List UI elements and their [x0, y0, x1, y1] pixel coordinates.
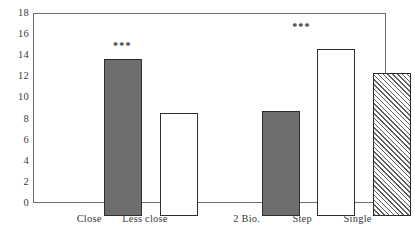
plot-area	[33, 13, 386, 203]
y-tick-label: 2	[0, 177, 29, 187]
y-tick-label: 4	[0, 156, 29, 166]
bar-single	[373, 73, 411, 216]
y-tick-label: 12	[0, 71, 29, 81]
bar-series	[68, 28, 415, 216]
y-tick-label: 10	[0, 92, 29, 102]
bar-close	[104, 59, 142, 216]
y-tick-label: 18	[0, 8, 29, 18]
x-tick-label: Less close	[105, 212, 185, 225]
x-axis: CloseLess close2 Bio.StepSingle	[34, 212, 385, 234]
significance-marker: ***	[292, 23, 311, 31]
x-tick-label: Single	[318, 212, 398, 225]
bar-2-bio	[262, 111, 300, 216]
y-tick-label: 14	[0, 50, 29, 60]
significance-marker: ***	[113, 42, 132, 50]
y-tick-label: 8	[0, 114, 29, 124]
y-tick-label: 6	[0, 135, 29, 145]
bar-less-close	[160, 113, 198, 216]
y-tick-label: 16	[0, 29, 29, 39]
y-tick-label: 0	[0, 198, 29, 208]
bar-step	[317, 49, 355, 216]
y-axis: 024681012141618	[0, 13, 29, 203]
